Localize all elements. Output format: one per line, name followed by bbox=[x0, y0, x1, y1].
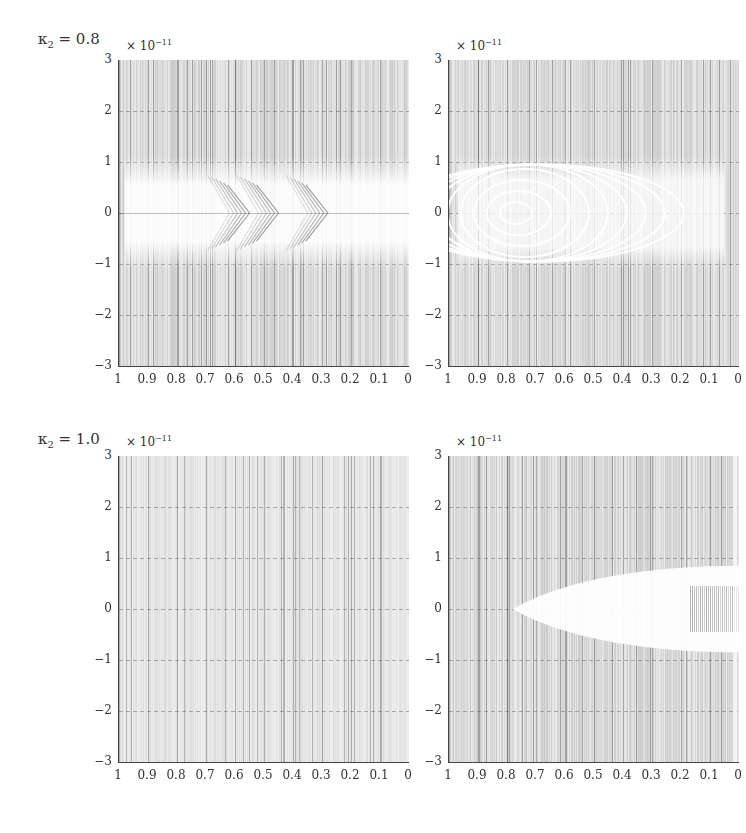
x-tick-label: 0.4 bbox=[609, 372, 635, 386]
plot-area bbox=[118, 456, 409, 763]
y-tick-label: −3 bbox=[418, 358, 442, 372]
y-tick-label: 3 bbox=[418, 52, 442, 66]
y-tick-label: 2 bbox=[88, 103, 112, 117]
y-tick-label: −2 bbox=[418, 307, 442, 321]
x-tick-label: 0.3 bbox=[638, 372, 664, 386]
x-tick-label: 0.5 bbox=[580, 768, 606, 782]
y-tick-label: 0 bbox=[88, 205, 112, 219]
x-tick-label: 0.2 bbox=[337, 768, 363, 782]
x-tick-label: 0.1 bbox=[366, 768, 392, 782]
x-tick-label: 0.3 bbox=[308, 768, 334, 782]
y-tick-label: 2 bbox=[88, 499, 112, 513]
y-tick-label: −2 bbox=[88, 703, 112, 717]
x-tick-label: 0.4 bbox=[279, 372, 305, 386]
x-tick-label: 0.8 bbox=[163, 768, 189, 782]
y-tick-label: −2 bbox=[418, 703, 442, 717]
y-tick-label: 0 bbox=[418, 601, 442, 615]
row-label-kappa-0.8: κ2 = 0.8 bbox=[38, 30, 100, 50]
x-tick-label: 0 bbox=[395, 372, 421, 386]
x-tick-label: 0.5 bbox=[250, 372, 276, 386]
x-tick-label: 0.2 bbox=[667, 372, 693, 386]
x-tick-label: 0 bbox=[725, 372, 746, 386]
x-tick-label: 0.5 bbox=[250, 768, 276, 782]
x-tick-label: 0.7 bbox=[192, 768, 218, 782]
plot-area bbox=[448, 60, 739, 367]
multiplier-exponent: −11 bbox=[485, 38, 502, 47]
x-tick-label: 0.6 bbox=[551, 768, 577, 782]
x-tick-label: 0.6 bbox=[221, 768, 247, 782]
x-tick-label: 0.1 bbox=[696, 768, 722, 782]
axis-multiplier-label: × 10−11 bbox=[456, 38, 502, 53]
x-tick-label: 0.5 bbox=[580, 372, 606, 386]
y-tick-label: −1 bbox=[418, 256, 442, 270]
axis-multiplier-label: × 10−11 bbox=[456, 434, 502, 449]
axis-multiplier-label: × 10−11 bbox=[126, 38, 172, 53]
y-tick-label: −3 bbox=[418, 754, 442, 768]
x-tick-label: 0 bbox=[395, 768, 421, 782]
multiplier-base: × 10 bbox=[456, 39, 485, 53]
y-tick-label: 1 bbox=[418, 154, 442, 168]
x-tick-label: 1 bbox=[435, 768, 461, 782]
x-tick-label: 0.6 bbox=[551, 372, 577, 386]
heatmap-canvas bbox=[449, 60, 739, 366]
x-tick-label: 1 bbox=[105, 372, 131, 386]
multiplier-base: × 10 bbox=[126, 39, 155, 53]
y-tick-label: −1 bbox=[88, 256, 112, 270]
plot-area bbox=[118, 60, 409, 367]
y-tick-label: −1 bbox=[418, 652, 442, 666]
heatmap-canvas bbox=[119, 456, 409, 762]
y-tick-label: 2 bbox=[418, 499, 442, 513]
y-tick-label: 1 bbox=[88, 550, 112, 564]
y-tick-label: −1 bbox=[88, 652, 112, 666]
axis-multiplier-label: × 10−11 bbox=[126, 434, 172, 449]
heatmap-canvas bbox=[449, 456, 739, 762]
multiplier-base: × 10 bbox=[456, 435, 485, 449]
x-tick-label: 0.2 bbox=[667, 768, 693, 782]
y-tick-label: 2 bbox=[418, 103, 442, 117]
x-tick-label: 0.3 bbox=[308, 372, 334, 386]
y-tick-label: −3 bbox=[88, 754, 112, 768]
plot-area bbox=[448, 456, 739, 763]
x-tick-label: 0.8 bbox=[163, 372, 189, 386]
multiplier-exponent: −11 bbox=[485, 434, 502, 443]
y-tick-label: −2 bbox=[88, 307, 112, 321]
x-tick-label: 0.8 bbox=[493, 372, 519, 386]
x-tick-label: 0.9 bbox=[464, 372, 490, 386]
y-tick-label: 3 bbox=[88, 52, 112, 66]
y-tick-label: 0 bbox=[88, 601, 112, 615]
x-tick-label: 0 bbox=[725, 768, 746, 782]
x-tick-label: 0.6 bbox=[221, 372, 247, 386]
y-tick-label: 1 bbox=[418, 550, 442, 564]
x-tick-label: 0.7 bbox=[522, 372, 548, 386]
x-tick-label: 0.8 bbox=[493, 768, 519, 782]
x-tick-label: 0.2 bbox=[337, 372, 363, 386]
multiplier-base: × 10 bbox=[126, 435, 155, 449]
x-tick-label: 0.9 bbox=[134, 768, 160, 782]
x-tick-label: 0.1 bbox=[696, 372, 722, 386]
x-tick-label: 1 bbox=[435, 372, 461, 386]
y-tick-label: 3 bbox=[418, 448, 442, 462]
multiplier-exponent: −11 bbox=[155, 38, 172, 47]
heatmap-canvas bbox=[119, 60, 409, 366]
y-tick-label: 1 bbox=[88, 154, 112, 168]
x-tick-label: 0.9 bbox=[464, 768, 490, 782]
x-tick-label: 0.9 bbox=[134, 372, 160, 386]
x-tick-label: 1 bbox=[105, 768, 131, 782]
multiplier-exponent: −11 bbox=[155, 434, 172, 443]
x-tick-label: 0.7 bbox=[522, 768, 548, 782]
x-tick-label: 0.7 bbox=[192, 372, 218, 386]
row-label-kappa-1.0: κ2 = 1.0 bbox=[38, 430, 100, 450]
y-tick-label: −3 bbox=[88, 358, 112, 372]
x-tick-label: 0.3 bbox=[638, 768, 664, 782]
x-tick-label: 0.4 bbox=[609, 768, 635, 782]
y-tick-label: 3 bbox=[88, 448, 112, 462]
x-tick-label: 0.1 bbox=[366, 372, 392, 386]
x-tick-label: 0.4 bbox=[279, 768, 305, 782]
y-tick-label: 0 bbox=[418, 205, 442, 219]
